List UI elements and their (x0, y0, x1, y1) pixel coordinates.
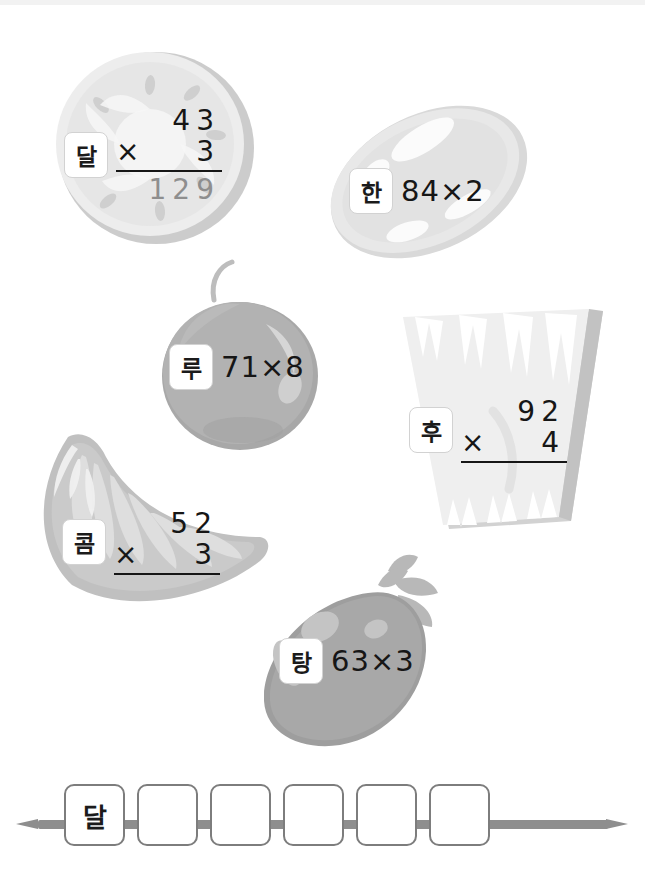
pineapple-multiplier: 4 (541, 427, 565, 458)
orange-multiplier: 3 (194, 539, 218, 570)
worksheet-page: 달 43 × 3 129 (0, 0, 645, 889)
melon-syllable-tag: 한 (349, 168, 393, 214)
page-top-strip (0, 0, 645, 5)
kiwi-multiplicand: 43 (116, 105, 222, 136)
pineapple-problem: 후 92 × 4 (409, 396, 567, 465)
skewer-box-6[interactable] (429, 784, 490, 846)
orange-answer (114, 575, 220, 577)
melon-problem: 한 84×2 (349, 168, 485, 214)
strawberry-problem: 탕 63×3 (279, 638, 415, 684)
pineapple-answer (461, 463, 567, 465)
kiwi-multiplier: 3 (196, 136, 220, 167)
kiwi-operator: × (116, 136, 145, 167)
skewer-box-2[interactable] (137, 784, 198, 846)
pineapple-multiplicand: 92 (461, 396, 567, 427)
kiwi-problem: 달 43 × 3 129 (64, 105, 222, 205)
orange-problem: 콤 52 × 3 (62, 508, 220, 577)
kiwi-syllable-tag: 달 (64, 132, 108, 178)
pineapple-vertical-expression: 92 × 4 (461, 396, 567, 465)
skewer-box-3[interactable] (210, 784, 271, 846)
pineapple-operator-row: × 4 (461, 427, 567, 458)
kiwi-operator-row: × 3 (116, 136, 222, 167)
pineapple-syllable-tag: 후 (409, 407, 453, 453)
kiwi-vertical-expression: 43 × 3 129 (116, 105, 222, 205)
kiwi-answer: 129 (116, 172, 222, 205)
skewer-tip-right-icon (606, 819, 628, 829)
plum-problem: 루 71×8 (169, 344, 305, 390)
orange-vertical-expression: 52 × 3 (114, 508, 220, 577)
orange-operator-row: × 3 (114, 539, 220, 570)
pineapple-operator: × (461, 427, 490, 458)
plum-syllable-tag: 루 (169, 344, 213, 390)
skewer: 달 (34, 784, 612, 866)
skewer-box-5[interactable] (356, 784, 417, 846)
skewer-box-4[interactable] (283, 784, 344, 846)
plum-expression: 71×8 (221, 350, 305, 384)
orange-multiplicand: 52 (114, 508, 220, 539)
orange-operator: × (114, 539, 143, 570)
melon-expression: 84×2 (401, 174, 485, 208)
strawberry-syllable-tag: 탕 (279, 638, 323, 684)
strawberry-expression: 63×3 (331, 644, 415, 678)
orange-syllable-tag: 콤 (62, 519, 106, 565)
skewer-tip-left-icon (16, 819, 38, 829)
skewer-answer-boxes: 달 (64, 784, 490, 846)
skewer-box-1[interactable]: 달 (64, 784, 125, 846)
